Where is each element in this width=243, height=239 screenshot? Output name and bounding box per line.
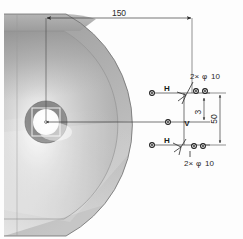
hole-dot-bottom-right [202, 145, 204, 147]
hole-callout-bottom-prefix: 2× [184, 159, 193, 168]
hole-callout-bottom-symbol: φ [196, 159, 201, 168]
annotation-layer: 150 H V H [0, 0, 243, 239]
constraint-horizontal-bottom: H [164, 136, 170, 145]
hole-callout-bottom-label: 10 [205, 159, 214, 168]
hole-dot-bottom-left [151, 144, 153, 146]
dimension-3: 3 [193, 98, 204, 120]
hole-dot-middle [167, 121, 169, 123]
constraint-vertical-middle: V [184, 119, 190, 128]
dimension-150: 150 [45, 8, 192, 123]
hole-callout-top: 2× φ 10 [177, 72, 220, 104]
hole-markers [150, 89, 208, 149]
hole-dot-top-left [151, 92, 153, 94]
dimension-50-label: 50 [209, 114, 219, 124]
hole-dot-top-mid [195, 90, 197, 92]
hole-callout-top-prefix: 2× [190, 72, 199, 81]
hole-callout-top-symbol: φ [202, 72, 207, 81]
dimension-3-label: 3 [193, 109, 203, 114]
constraint-horizontal-top: H [164, 84, 170, 93]
dimension-50: 50 [206, 93, 226, 145]
hole-dot-bottom-mid [193, 145, 195, 147]
dimension-150-label: 150 [112, 8, 126, 18]
hole-callout-top-label: 10 [211, 72, 220, 81]
hole-callout-top-leader [178, 82, 193, 101]
technical-drawing-canvas: 150 H V H [0, 0, 243, 239]
hole-dot-top-right [204, 90, 206, 92]
